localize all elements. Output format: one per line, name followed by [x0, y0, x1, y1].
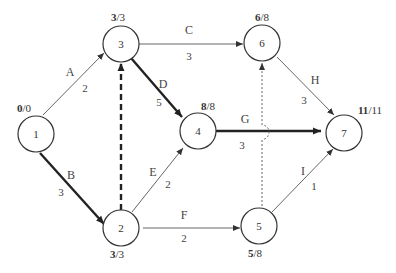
node-6-times: 6/8 [255, 11, 270, 23]
node-4-times: 8/8 [201, 100, 216, 112]
network-diagram: A 2 B 3 C 3 D 5 E 2 F 2 G 3 H 3 I 1 [0, 0, 396, 273]
edge-I: I 1 [272, 149, 333, 212]
node-3-times: 3/3 [111, 11, 126, 23]
edge-D-duration: 5 [156, 96, 162, 108]
edge-B-activity: B [67, 168, 75, 182]
edge-H-activity: H [311, 73, 320, 87]
node-5: 5 5/8 [241, 208, 277, 259]
node-1-times: 0/0 [17, 102, 32, 114]
edge-E: E 2 [132, 148, 183, 212]
edge-D-activity: D [159, 77, 168, 91]
edge-C-activity: C [185, 23, 193, 37]
edge-B: B 3 [40, 153, 104, 224]
edge-H: H 3 [277, 57, 334, 115]
edge-E-activity: E [149, 165, 156, 179]
node-3-label: 3 [118, 38, 124, 50]
edge-C: C 3 [139, 23, 243, 62]
node-5-label: 5 [256, 220, 262, 232]
edge-G-duration: 3 [239, 139, 245, 151]
node-1-label: 1 [33, 128, 39, 140]
edge-I-duration: 1 [311, 180, 317, 192]
node-6-label: 6 [259, 37, 265, 49]
node-2-times: 3/3 [110, 248, 125, 260]
edge-C-duration: 3 [186, 50, 192, 62]
node-7: 7 11/11 [326, 104, 382, 151]
dummy-edge-5-6 [262, 63, 269, 210]
node-4-label: 4 [195, 125, 201, 137]
edge-A-duration: 2 [82, 82, 88, 94]
edge-B-duration: 3 [58, 186, 64, 198]
edge-H-duration: 3 [301, 94, 307, 106]
edge-G-activity: G [241, 112, 250, 126]
node-2-label: 2 [118, 222, 124, 234]
edge-D: D 5 [131, 58, 182, 117]
edge-I-activity: I [301, 164, 305, 178]
node-4: 4 8/8 [180, 100, 216, 149]
node-5-times: 5/8 [248, 247, 263, 259]
edge-A: A 2 [43, 53, 104, 115]
edge-A-activity: A [66, 65, 75, 79]
node-7-times: 11/11 [358, 104, 382, 116]
node-3: 3 3/3 [103, 11, 139, 62]
edge-F-activity: F [181, 208, 188, 222]
node-7-label: 7 [341, 127, 347, 139]
node-2: 2 3/3 [103, 210, 139, 260]
edge-F: F 2 [143, 208, 240, 244]
node-6: 6 6/8 [244, 11, 280, 61]
edge-F-duration: 2 [181, 232, 187, 244]
edge-E-duration: 2 [165, 178, 171, 190]
